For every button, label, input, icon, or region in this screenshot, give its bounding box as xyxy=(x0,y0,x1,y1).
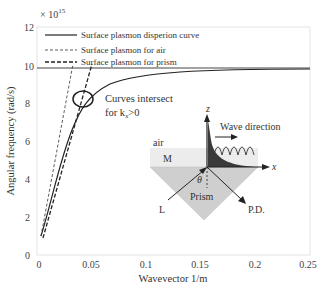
x-tick: 0 xyxy=(37,259,42,270)
y-tick: 0 xyxy=(25,250,30,261)
legend: Surface plasmon disperion curve Surface … xyxy=(45,30,199,67)
legend-item: Surface plasmon for air xyxy=(81,45,166,55)
photodetector-label: P.D. xyxy=(248,204,265,215)
x-arrowhead-icon xyxy=(262,164,270,170)
series-prism-light-line xyxy=(43,64,92,238)
x-axis-label: Wavevector 1/m xyxy=(139,273,208,284)
annotation: Curves intersect for kx>0 xyxy=(105,93,173,120)
air-label: air xyxy=(153,137,164,148)
legend-item: Surface plasmon for prism xyxy=(81,57,177,67)
z-label: z xyxy=(205,103,210,114)
wave-direction-label: Wave direction xyxy=(220,121,281,132)
wave-arrowhead-icon xyxy=(231,134,238,140)
x-label: x xyxy=(271,161,277,172)
y-tick: 4 xyxy=(25,174,30,185)
y-tick: 6 xyxy=(25,136,30,147)
y-tick: 2 xyxy=(25,212,30,223)
x-axis: 0 0.05 0.1 0.15 0.2 0.25 Wavevector 1/m xyxy=(37,259,317,284)
y-tick: 10 xyxy=(24,61,34,72)
y-tick: 12 xyxy=(24,22,34,33)
z-arrowhead-icon xyxy=(204,114,210,122)
x-tick: 0.25 xyxy=(299,259,317,270)
annotation-line1: Curves intersect xyxy=(105,93,173,104)
inset-diagram: z x Wave direction air M L P.D. θ Prism xyxy=(150,103,281,220)
light-source-label: L xyxy=(159,204,165,215)
y-axis-label: Angular frequency (rad/s) xyxy=(5,86,17,196)
chart-canvas: 0 2 4 6 8 10 12 × 1015 Angular frequency… xyxy=(0,0,329,290)
y-tick: 8 xyxy=(25,98,30,109)
legend-item: Surface plasmon disperion curve xyxy=(81,30,199,40)
prism-label: Prism xyxy=(190,191,214,202)
theta-label: θ xyxy=(197,174,202,185)
x-tick: 0.15 xyxy=(191,259,209,270)
metal-label: M xyxy=(163,153,172,164)
y-axis: 0 2 4 6 8 10 12 × 1015 Angular frequency… xyxy=(5,7,66,261)
x-tick: 0.05 xyxy=(82,259,100,270)
x-tick: 0.2 xyxy=(249,259,262,270)
annotation-line2: for kx>0 xyxy=(105,107,139,120)
y-multiplier: × 1015 xyxy=(40,7,66,20)
x-tick: 0.1 xyxy=(140,259,153,270)
